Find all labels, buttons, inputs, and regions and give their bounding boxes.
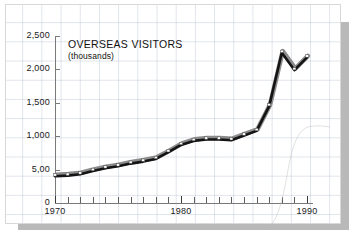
data-point-marker — [91, 168, 94, 170]
data-point-marker — [180, 142, 183, 144]
data-point-marker — [205, 137, 208, 139]
data-point-marker — [54, 174, 57, 176]
bleedthrough-artifact-curve — [268, 126, 330, 228]
data-point-marker — [104, 166, 107, 168]
figure-page: 05,001,0001,5002,0002,500 197019801990 O… — [0, 0, 349, 238]
data-point-marker — [129, 161, 132, 163]
series-line — [55, 53, 307, 177]
data-point-marker — [66, 173, 69, 175]
data-point-marker — [154, 156, 157, 158]
series-overlay — [0, 0, 349, 238]
data-point-marker — [268, 104, 271, 106]
data-point-marker — [167, 150, 170, 152]
data-point-marker — [79, 172, 82, 174]
data-point-marker — [142, 159, 145, 161]
data-point-marker — [192, 138, 195, 140]
data-point-marker — [280, 50, 283, 52]
data-point-marker — [230, 138, 233, 140]
data-point-marker — [217, 137, 220, 139]
data-series-group — [54, 50, 309, 176]
series-line-highlight — [56, 51, 308, 175]
data-point-marker — [243, 133, 246, 135]
data-point-marker — [255, 128, 258, 130]
data-point-marker — [117, 164, 120, 166]
data-point-marker — [306, 55, 309, 57]
data-point-marker — [293, 68, 296, 70]
